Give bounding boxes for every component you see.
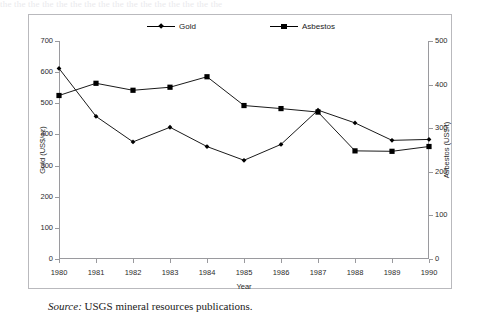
right-axis-tick [429, 128, 433, 129]
asbestos-series-marker-icon [270, 22, 298, 31]
x-axis-tick [59, 259, 60, 263]
caption-text: USGS mineral resources publications. [82, 300, 253, 312]
data-point-gold [353, 121, 358, 126]
legend-label-gold: Gold [179, 22, 196, 31]
x-axis-tick-label: 1988 [347, 269, 364, 277]
data-point-gold [205, 144, 210, 149]
right-axis-tick-label: 100 [435, 212, 448, 220]
right-axis-tick-label: 400 [435, 81, 448, 89]
data-point-asbestos [352, 148, 357, 153]
data-series-layer [59, 41, 429, 259]
x-axis-title: Year [236, 283, 251, 291]
y-axis-title-gold: Gold (US$/oz) [39, 126, 47, 174]
x-axis-tick-label: 1989 [384, 269, 401, 277]
right-axis-tick-label: 0 [435, 255, 439, 263]
x-axis-tick [392, 259, 393, 263]
series-asbestos [56, 74, 431, 154]
x-axis-tick-label: 1986 [273, 269, 290, 277]
gold-series-marker-icon [147, 22, 175, 31]
legend-label-asbestos: Asbestos [302, 22, 335, 31]
data-point-asbestos [167, 85, 172, 90]
x-axis-tick-label: 1980 [51, 269, 68, 277]
data-point-asbestos [56, 93, 61, 98]
page-top-bleed-text: the the the the the the the the the the … [0, 0, 477, 9]
x-axis-tick [318, 259, 319, 263]
x-axis-tick [244, 259, 245, 263]
data-point-gold [390, 138, 395, 143]
left-axis-tick-label: 600 [40, 68, 53, 76]
right-axis-tick [429, 41, 433, 42]
data-point-asbestos [278, 106, 283, 111]
chart-legend: Gold Asbestos [29, 22, 453, 31]
plot-area: 0100200300400500600700 0100200300400500 … [59, 41, 429, 259]
x-axis-tick-label: 1983 [162, 269, 179, 277]
x-axis-tick-label: 1981 [88, 269, 105, 277]
data-point-asbestos [426, 144, 431, 149]
series-line-gold [59, 68, 429, 160]
data-point-asbestos [315, 109, 320, 114]
x-axis-tick-label: 1982 [125, 269, 142, 277]
x-axis-tick-label: 1985 [236, 269, 253, 277]
data-point-asbestos [389, 149, 394, 154]
legend-entry-gold: Gold [147, 22, 196, 31]
x-axis-tick [281, 259, 282, 263]
left-axis-tick-label: 0 [49, 255, 53, 263]
y-axis-title-asbestos: Asbestos (US$/t) [443, 122, 451, 179]
series-line-asbestos [59, 77, 429, 152]
left-axis-tick-label: 500 [40, 100, 53, 108]
caption-source-label: Source: [48, 300, 82, 312]
x-axis-tick [429, 259, 430, 263]
left-axis-tick-label: 100 [40, 224, 53, 232]
x-axis-tick [133, 259, 134, 263]
data-point-gold [168, 125, 173, 130]
right-axis-tick [429, 172, 433, 173]
right-axis-tick-label: 500 [435, 37, 448, 45]
legend-entry-asbestos: Asbestos [270, 22, 335, 31]
right-axis-tick [429, 215, 433, 216]
x-axis-tick [355, 259, 356, 263]
data-point-gold [427, 137, 432, 142]
x-axis-tick-label: 1990 [421, 269, 438, 277]
plot-inner: 0100200300400500600700 0100200300400500 … [59, 41, 429, 259]
x-axis-tick-label: 1987 [310, 269, 327, 277]
x-axis-tick [207, 259, 208, 263]
data-point-asbestos [241, 103, 246, 108]
data-point-asbestos [204, 74, 209, 79]
left-axis-tick-label: 700 [40, 37, 53, 45]
figure-frame: Gold Asbestos 0100200300400500600700 010… [28, 14, 452, 289]
data-point-asbestos [93, 81, 98, 86]
x-axis-tick [96, 259, 97, 263]
left-axis-tick-label: 200 [40, 193, 53, 201]
figure-caption: Source: USGS mineral resources publicati… [48, 300, 253, 312]
x-axis-tick [170, 259, 171, 263]
data-point-gold [242, 158, 247, 163]
x-axis-tick-label: 1984 [199, 269, 216, 277]
series-gold [57, 66, 432, 163]
right-axis-tick [429, 85, 433, 86]
data-point-asbestos [130, 88, 135, 93]
